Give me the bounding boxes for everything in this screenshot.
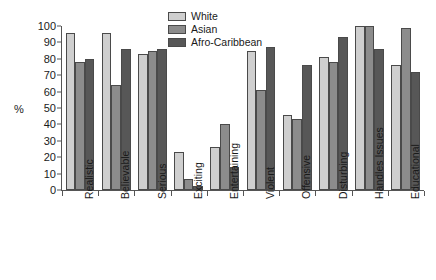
y-axis-tick-label: 90 bbox=[26, 37, 56, 48]
legend-item: Afro-Caribbean bbox=[168, 37, 262, 48]
y-axis-tick-label: 50 bbox=[26, 103, 56, 114]
legend-item: White bbox=[168, 11, 262, 22]
x-axis-tick-label: Exciting bbox=[193, 162, 204, 199]
x-axis-tickmark bbox=[352, 191, 353, 196]
y-axis-tick-label: 70 bbox=[26, 70, 56, 81]
bar bbox=[210, 147, 220, 190]
x-axis-tickmark bbox=[207, 191, 208, 196]
x-axis-tick-label: Believable bbox=[120, 151, 131, 199]
x-axis-tick-label: Violent bbox=[265, 167, 276, 199]
x-axis-tickmark bbox=[62, 191, 63, 196]
legend-item: Asian bbox=[168, 24, 262, 35]
bar bbox=[391, 65, 401, 190]
x-axis-tick-label: Disturbing bbox=[338, 152, 349, 199]
x-axis-tickmark bbox=[315, 191, 316, 196]
x-axis-tick-label: Serious bbox=[157, 163, 168, 199]
chart-legend: WhiteAsianAfro-Caribbean bbox=[168, 11, 262, 50]
legend-swatch-icon bbox=[168, 12, 186, 21]
plot-area bbox=[62, 26, 424, 190]
bar bbox=[102, 33, 112, 190]
y-axis-tick-label: 20 bbox=[26, 152, 56, 163]
bar-chart: % 0102030405060708090100 RealisticBeliev… bbox=[0, 0, 436, 280]
x-axis-tickmark bbox=[279, 191, 280, 196]
x-axis-tickmark bbox=[424, 191, 425, 196]
bar bbox=[66, 33, 76, 190]
y-axis-tick-label: 10 bbox=[26, 168, 56, 179]
bar bbox=[138, 54, 148, 190]
legend-swatch-icon bbox=[168, 25, 186, 34]
x-axis-tick-label: Educational bbox=[410, 144, 421, 199]
y-axis-tick-labels: 0102030405060708090100 bbox=[26, 20, 56, 196]
y-axis-tick-label: 80 bbox=[26, 53, 56, 64]
y-axis-tick-label: 30 bbox=[26, 135, 56, 146]
x-axis-tickmark bbox=[171, 191, 172, 196]
y-axis-tick-label: 100 bbox=[26, 21, 56, 32]
x-axis-tickmark bbox=[134, 191, 135, 196]
legend-label: Asian bbox=[191, 24, 217, 35]
y-axis-tick-label: 0 bbox=[26, 185, 56, 196]
x-axis-tick-label: Offensive bbox=[301, 155, 312, 199]
x-axis-tick-label: Realistic bbox=[84, 159, 95, 199]
legend-swatch-icon bbox=[168, 38, 186, 47]
bar bbox=[174, 152, 184, 190]
x-axis-tick-label: Handles Issues bbox=[374, 127, 385, 199]
bar-group bbox=[243, 26, 279, 190]
legend-label: Afro-Caribbean bbox=[191, 37, 262, 48]
x-axis-tickmark bbox=[98, 191, 99, 196]
bar bbox=[355, 26, 365, 190]
legend-label: White bbox=[191, 11, 218, 22]
bar bbox=[283, 115, 293, 190]
x-axis-tick-label: Entertaining bbox=[229, 143, 240, 199]
y-axis-tick-label: 60 bbox=[26, 86, 56, 97]
x-axis-tickmark bbox=[243, 191, 244, 196]
bar bbox=[247, 51, 257, 190]
bar bbox=[319, 57, 329, 190]
y-axis-title: % bbox=[14, 104, 24, 115]
x-axis-tickmark bbox=[388, 191, 389, 196]
y-axis-tick-label: 40 bbox=[26, 119, 56, 130]
